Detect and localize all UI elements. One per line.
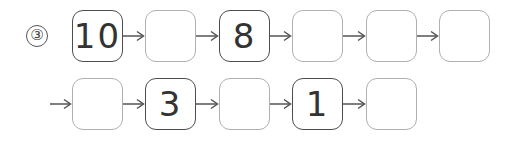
arrow-icon <box>123 30 145 42</box>
number-box[interactable] <box>219 78 270 130</box>
arrow-icon <box>123 98 145 110</box>
arrow-icon <box>270 30 292 42</box>
number-box[interactable]: 1 <box>292 78 343 130</box>
arrow-icon <box>196 98 219 110</box>
problem-label: ③ <box>26 25 48 47</box>
arrow-icon <box>343 98 366 110</box>
number-box[interactable]: 8 <box>219 10 270 62</box>
number-box[interactable] <box>292 10 343 62</box>
number-box[interactable]: 10 <box>72 10 123 62</box>
arrow-icon <box>270 98 292 110</box>
arrow-icon <box>417 30 439 42</box>
number-box[interactable] <box>72 78 123 130</box>
arrow-icon <box>343 30 366 42</box>
number-box[interactable] <box>366 78 417 130</box>
number-box[interactable] <box>145 10 196 62</box>
number-box[interactable] <box>439 10 490 62</box>
number-box[interactable]: 3 <box>145 78 196 130</box>
number-box[interactable] <box>366 10 417 62</box>
arrow-icon <box>50 98 72 110</box>
arrow-icon <box>196 30 219 42</box>
